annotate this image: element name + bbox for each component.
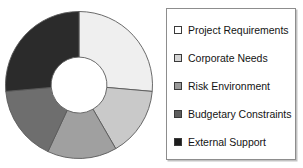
legend-label-budgetary-constraints: Budgetary Constraints — [188, 109, 291, 120]
legend-label-project-requirements: Project Requirements — [188, 25, 289, 36]
chart-legend: Project Requirements Corporate Needs Ris… — [166, 8, 296, 160]
chart-canvas: Project Requirements Corporate Needs Ris… — [0, 0, 303, 168]
legend-label-risk-environment: Risk Environment — [188, 81, 270, 92]
legend-swatch-external-support — [174, 138, 182, 146]
legend-swatch-project-requirements — [174, 26, 182, 34]
legend-label-corporate-needs: Corporate Needs — [188, 53, 268, 64]
legend-item-budgetary-constraints[interactable]: Budgetary Constraints — [174, 100, 295, 128]
legend-swatch-corporate-needs — [174, 54, 182, 62]
legend-item-project-requirements[interactable]: Project Requirements — [174, 16, 295, 44]
legend-item-external-support[interactable]: External Support — [174, 128, 295, 156]
legend-swatch-risk-environment — [174, 82, 182, 90]
donut-chart-svg — [2, 8, 156, 162]
donut-chart — [2, 8, 156, 162]
legend-item-risk-environment[interactable]: Risk Environment — [174, 72, 295, 100]
legend-swatch-budgetary-constraints — [174, 110, 182, 118]
donut-slice[interactable] — [5, 12, 79, 92]
donut-slice[interactable] — [79, 12, 153, 92]
legend-item-corporate-needs[interactable]: Corporate Needs — [174, 44, 295, 72]
donut-slice-group — [5, 12, 152, 159]
legend-label-external-support: External Support — [188, 137, 266, 148]
